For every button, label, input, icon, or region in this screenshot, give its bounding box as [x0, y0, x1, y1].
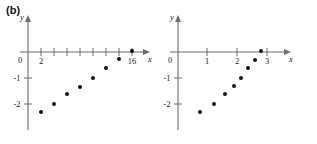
plot-right-svg: 0 -1 -2 1 2 3 y x: [160, 0, 317, 144]
scatter-plot-right: 0 -1 -2 1 2 3 y x: [160, 0, 317, 144]
plot-left-ticklabels: 0 -1 -2 2 16: [13, 55, 136, 109]
data-point: [198, 110, 202, 114]
y-ticklabel-neg1: -1: [163, 73, 170, 83]
data-point: [130, 49, 134, 53]
data-point: [223, 92, 227, 96]
data-point: [253, 58, 257, 62]
x-ticklabel-3: 3: [265, 56, 269, 66]
y-ticklabel-0: 0: [18, 55, 22, 65]
y-axis-label: y: [19, 12, 24, 22]
x-ticklabel-1: 1: [205, 56, 209, 66]
x-ticklabel-16: 16: [128, 56, 137, 66]
data-point: [212, 102, 216, 106]
plot-left-svg: 0 -1 -2 2 16 y x: [0, 0, 160, 144]
plot-left-datapoints: [39, 49, 134, 114]
data-point: [39, 110, 43, 114]
data-point: [78, 85, 82, 89]
plot-right-ticklabels: 0 -1 -2 1 2 3: [163, 55, 269, 109]
y-ticklabel-0: 0: [168, 55, 172, 65]
plot-right-axes: [170, 15, 291, 130]
data-point: [52, 102, 56, 106]
y-axis-arrow: [175, 15, 181, 22]
data-point: [91, 76, 95, 80]
x-ticklabel-2: 2: [235, 56, 239, 66]
x-axis-label: x: [288, 54, 293, 64]
x-ticklabel-2: 2: [39, 56, 43, 66]
data-point: [246, 66, 250, 70]
data-point: [104, 66, 108, 70]
y-ticklabel-neg2: -2: [13, 99, 20, 109]
data-point: [65, 92, 69, 96]
plot-right-axislabels: y x: [169, 12, 293, 64]
x-axis-label: x: [147, 54, 152, 64]
data-point: [259, 49, 263, 53]
figure-panel-b: (b) 0: [0, 0, 317, 144]
scatter-plot-left: 0 -1 -2 2 16 y x: [0, 0, 160, 144]
y-ticklabel-neg2: -2: [163, 99, 170, 109]
data-point: [117, 57, 121, 61]
data-point: [239, 76, 243, 80]
y-ticklabel-neg1: -1: [13, 73, 20, 83]
y-axis-arrow: [25, 15, 31, 22]
data-point: [232, 84, 236, 88]
y-axis-label: y: [169, 12, 174, 22]
